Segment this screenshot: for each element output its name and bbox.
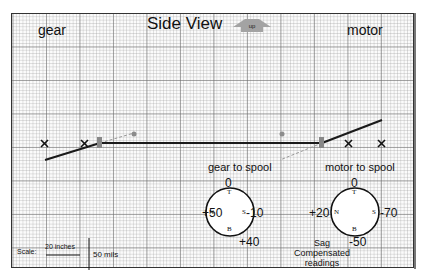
gear-dial-caption: gear to spool bbox=[208, 161, 272, 173]
sag-note-line3: readings bbox=[294, 258, 350, 268]
motor-coupling bbox=[319, 137, 324, 148]
motor-dial-n: N bbox=[334, 208, 339, 216]
scale-label: Scale: bbox=[17, 248, 36, 255]
motor-dial-bottom: -50 bbox=[349, 235, 366, 249]
sag-note-line2: Compensated bbox=[294, 248, 350, 258]
gear-dial-b: B bbox=[227, 225, 232, 233]
gear-dial-bottom: +40 bbox=[239, 235, 259, 249]
gear-dial-t: T bbox=[227, 188, 231, 196]
gear-projection-line bbox=[100, 133, 134, 143]
motor-dial-left: +20 bbox=[309, 206, 329, 220]
motor-point bbox=[280, 132, 285, 137]
motor-projection-line bbox=[280, 143, 322, 160]
gear-dial-n: N bbox=[209, 208, 214, 216]
scale-horizontal-label: 20 inches bbox=[45, 243, 75, 250]
sag-note-line1: Sag bbox=[294, 238, 350, 248]
sag-note: Sag Compensated readings bbox=[294, 238, 350, 268]
scale-vertical-label: 50 mils bbox=[93, 250, 118, 259]
motor-dial-s: S bbox=[372, 208, 376, 216]
motor-shaft-line bbox=[322, 120, 382, 143]
gear-point bbox=[132, 132, 137, 137]
motor-dial-b: B bbox=[352, 225, 357, 233]
motor-dial-right: -70 bbox=[380, 206, 397, 220]
motor-dial-t: T bbox=[352, 188, 356, 196]
gear-dial-right: -10 bbox=[246, 206, 263, 220]
motor-dial-caption: motor to spool bbox=[325, 161, 395, 173]
gear-dial-s: S bbox=[242, 208, 246, 216]
gear-coupling bbox=[97, 137, 102, 148]
gear-shaft-line bbox=[45, 143, 100, 160]
